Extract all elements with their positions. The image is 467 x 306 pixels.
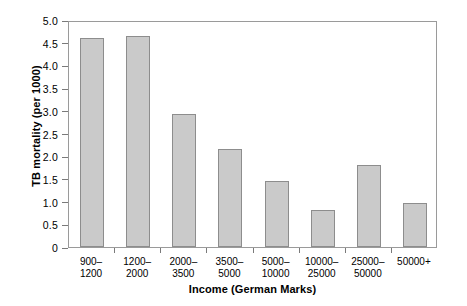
bar	[218, 149, 242, 247]
x-axis-category-line: 5000–	[253, 256, 299, 268]
plot-area	[68, 21, 437, 248]
x-axis-category-line: 25000	[299, 268, 345, 280]
x-axis-category-line: 3500–	[206, 256, 252, 268]
x-axis-tick	[160, 248, 161, 253]
x-axis-category-label: 900–1200	[68, 256, 114, 279]
bar	[265, 181, 289, 247]
y-axis-tick-label: 5.0	[18, 16, 58, 26]
x-axis-category-label: 1200–2000	[114, 256, 160, 279]
x-axis-category-line: 50000+	[391, 256, 437, 268]
x-axis-category-line: 2000	[114, 268, 160, 280]
x-axis-tick	[299, 248, 300, 253]
x-axis-category-label: 50000+	[391, 256, 437, 268]
x-axis-category-label: 25000–50000	[345, 256, 391, 279]
bar	[311, 210, 335, 247]
x-axis-category-line: 10000	[253, 268, 299, 280]
x-axis-category-line: 10000–	[299, 256, 345, 268]
y-axis-tick-label: 3.0	[18, 107, 58, 117]
y-axis-tick-label: 2.0	[18, 152, 58, 162]
x-axis-category-label: 5000–10000	[253, 256, 299, 279]
x-axis-tick	[345, 248, 346, 253]
x-axis-category-label: 3500–5000	[206, 256, 252, 279]
x-axis-category-line: 25000–	[345, 256, 391, 268]
bar	[80, 38, 104, 247]
bar	[403, 203, 427, 247]
x-axis-tick	[391, 248, 392, 253]
y-axis-tick-label: 4.5	[18, 39, 58, 49]
x-axis-category-line: 50000	[345, 268, 391, 280]
y-axis-tick-label: 0.5	[18, 220, 58, 230]
y-axis-tick-label: 1.0	[18, 198, 58, 208]
x-axis-category-line: 1200	[68, 268, 114, 280]
x-axis-category-label: 2000–3500	[160, 256, 206, 279]
y-axis-tick-label: 0	[18, 243, 58, 253]
y-axis-tick-label: 1.5	[18, 175, 58, 185]
x-axis-category-line: 2000–	[160, 256, 206, 268]
y-axis-tick-label: 2.5	[18, 130, 58, 140]
x-axis-title: Income (German Marks)	[68, 283, 437, 295]
y-axis-tick-label: 4.0	[18, 61, 58, 71]
x-axis-category-line: 1200–	[114, 256, 160, 268]
bar	[172, 114, 196, 247]
x-axis-category-line: 900–	[68, 256, 114, 268]
x-axis-tick	[253, 248, 254, 253]
x-axis-category-line: 5000	[206, 268, 252, 280]
bar	[357, 165, 381, 247]
x-axis-category-line: 3500	[160, 268, 206, 280]
x-axis-tick	[114, 248, 115, 253]
x-axis-category-label: 10000–25000	[299, 256, 345, 279]
bar	[126, 36, 150, 247]
x-axis-tick	[206, 248, 207, 253]
bar-chart-figure: TB mortality (per 1000) 00.51.01.52.02.5…	[0, 0, 467, 306]
y-axis-tick-label: 3.5	[18, 84, 58, 94]
